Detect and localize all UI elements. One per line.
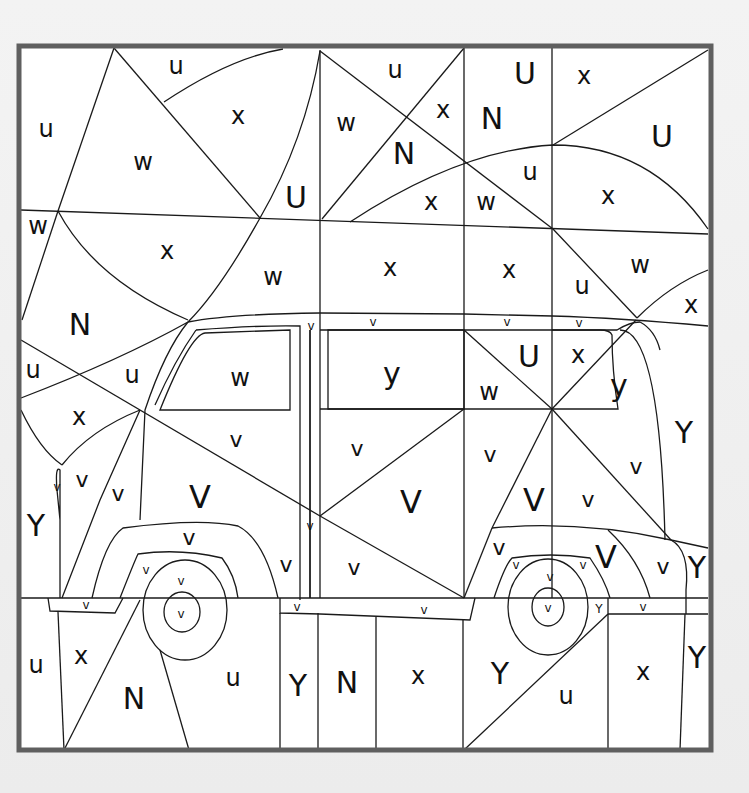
region-letter: V: [595, 538, 617, 576]
region-letter: v: [307, 319, 314, 333]
region-letter: w: [28, 212, 48, 240]
region-letter: x: [72, 403, 86, 431]
region-letter: y: [610, 368, 628, 403]
region-letter: N: [481, 101, 503, 136]
region-letter: v: [581, 487, 594, 512]
region-letter: x: [571, 341, 585, 369]
region-letter: N: [393, 136, 415, 171]
region-letter: v: [82, 598, 89, 612]
region-letter: U: [651, 119, 673, 154]
region-letter: w: [336, 109, 356, 137]
region-letter: Y: [490, 656, 510, 691]
region-letter: V: [400, 483, 422, 521]
region-letter: Y: [687, 550, 707, 585]
region-letter: v: [656, 554, 669, 579]
region-letter: v: [546, 570, 553, 584]
region-letter: u: [25, 356, 40, 384]
region-letter: v: [75, 467, 88, 492]
region-letter: u: [522, 158, 537, 186]
region-letter: v: [142, 563, 149, 577]
region-letter: v: [177, 607, 184, 621]
region-letter: v: [420, 603, 427, 617]
region-letter: v: [639, 600, 646, 614]
region-letter: N: [336, 665, 358, 700]
region-letter: x: [601, 182, 615, 210]
region-letter: w: [479, 378, 499, 406]
region-letter: u: [124, 361, 139, 389]
region-letter: y: [383, 356, 401, 391]
region-letter: x: [231, 102, 245, 130]
region-letter: w: [133, 148, 153, 176]
region-letter: v: [483, 442, 496, 467]
region-letter: u: [225, 664, 240, 692]
region-letter: N: [69, 307, 91, 342]
region-letter: v: [629, 454, 642, 479]
scanned-page: uuwxUwuxNNUxUxwuxwxwxxuwxNuuxwyUxwyYvvvv…: [0, 0, 749, 793]
region-letter: Y: [687, 640, 707, 675]
region-letter: v: [350, 436, 363, 461]
region-letter: U: [285, 180, 307, 215]
region-letter: Y: [594, 602, 603, 616]
region-letter: x: [74, 642, 88, 670]
region-letter: v: [229, 427, 242, 452]
region-letter: v: [544, 601, 551, 615]
paper: [19, 46, 711, 750]
region-letter: v: [512, 558, 519, 572]
region-letter: v: [492, 535, 505, 560]
region-letter: u: [28, 651, 43, 679]
region-letter: u: [38, 115, 53, 143]
region-letter: U: [514, 56, 536, 91]
region-letter: u: [558, 682, 573, 710]
region-letter: V: [523, 481, 545, 519]
region-letter: N: [123, 681, 145, 716]
region-letter: v: [177, 574, 184, 588]
region-letter: x: [436, 96, 450, 124]
region-letter: v: [279, 552, 292, 577]
region-letter: w: [263, 263, 283, 291]
region-letter: v: [503, 315, 510, 329]
region-letter: Y: [26, 508, 46, 543]
region-letter: v: [293, 600, 300, 614]
region-letter: U: [518, 339, 540, 374]
region-letter: u: [574, 272, 589, 300]
region-letter: x: [577, 62, 591, 90]
region-letter: v: [111, 481, 124, 506]
region-letter: x: [684, 291, 698, 319]
region-letter: Y: [674, 415, 694, 450]
region-letter: x: [160, 237, 174, 265]
region-letter: v: [53, 480, 60, 494]
line-art-drawing: uuwxUwuxNNUxUxwuxwxwxxuwxNuuxwyUxwyYvvvv…: [0, 0, 749, 793]
region-letter: Y: [288, 668, 308, 703]
region-letter: x: [502, 256, 516, 284]
region-letter: u: [387, 56, 402, 84]
region-letter: v: [575, 316, 582, 330]
region-letter: w: [476, 188, 496, 216]
region-letter: w: [230, 364, 250, 392]
region-letter: x: [411, 662, 425, 690]
region-letter: v: [306, 519, 313, 533]
region-letter: v: [579, 558, 586, 572]
region-letter: x: [424, 188, 438, 216]
region-letter: x: [636, 658, 650, 686]
region-letter: v: [182, 525, 195, 550]
region-letter: u: [168, 52, 183, 80]
region-letter: v: [369, 315, 376, 329]
region-letter: w: [630, 251, 650, 279]
region-letter: v: [347, 555, 360, 580]
coloring-sheet: uuwxUwuxNNUxUxwuxwxwxxuwxNuuxwyUxwyYvvvv…: [0, 0, 749, 793]
region-letter: V: [189, 478, 211, 516]
region-letter: x: [383, 254, 397, 282]
